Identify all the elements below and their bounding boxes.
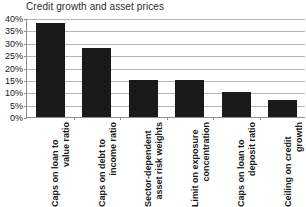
x-axis-category-label-line: Caps on loan to: [236, 122, 247, 207]
x-axis-category-label-line: Sector-dependent: [143, 122, 154, 207]
plot-area: 0%5%10%15%20%25%30%35%40%: [26, 19, 305, 118]
x-axis-category-label: Limit on exposureconcentration: [167, 122, 211, 207]
gridline: [27, 44, 305, 45]
y-axis-tick-mark: [24, 106, 27, 107]
y-axis-tick-mark: [24, 81, 27, 82]
y-axis-tick-mark: [24, 31, 27, 32]
x-axis-category-label-line: concentration: [200, 122, 211, 207]
y-axis-tick-mark: [24, 56, 27, 57]
y-axis-tick-mark: [24, 44, 27, 45]
y-axis-tick-mark: [24, 19, 27, 20]
x-axis-tick-mark: [167, 117, 168, 120]
x-axis-labels-group: Caps on loan tovalue ratioCaps on debt t…: [26, 122, 305, 207]
x-axis-category-label-line: growth: [293, 122, 304, 207]
x-axis-category-label-line: income ratio: [107, 122, 118, 207]
chart-title: Credit growth and asset prices: [26, 0, 164, 13]
x-axis-category-label-line: asset risk weights: [154, 122, 165, 207]
gridline: [27, 31, 305, 32]
x-axis-category-label: Ceiling on creditgrowth: [260, 122, 304, 207]
x-axis-category-label-line: Caps on loan to: [50, 122, 61, 207]
bar: [129, 80, 158, 117]
bar: [82, 48, 111, 117]
x-axis-category-label: Caps on loan tovalue ratio: [27, 122, 71, 207]
x-axis-category-label-line: Ceiling on credit: [283, 122, 294, 207]
y-axis-tick-label: 0%: [10, 114, 23, 123]
x-axis-category-label-line: Limit on exposure: [190, 122, 201, 207]
x-axis-category-label-line: deposit ratio: [247, 122, 258, 207]
gridline: [27, 56, 305, 57]
y-axis-tick-mark: [24, 69, 27, 70]
chart-figure: Credit growth and asset prices 0%5%10%15…: [0, 0, 306, 207]
x-axis-tick-mark: [213, 117, 214, 120]
y-axis-tick-label: 30%: [5, 39, 23, 48]
y-axis-tick-label: 40%: [5, 15, 23, 24]
x-axis-tick-mark: [74, 117, 75, 120]
y-axis-tick-label: 15%: [5, 76, 23, 85]
x-axis-category-label: Caps on debt toincome ratio: [74, 122, 118, 207]
x-axis-category-label: Caps on loan todeposit ratio: [213, 122, 257, 207]
x-axis-category-label-line: Caps on debt to: [97, 122, 108, 207]
y-axis-tick-mark: [24, 118, 27, 119]
gridline: [27, 81, 305, 82]
x-axis-category-label-line: value ratio: [61, 122, 72, 207]
x-axis-tick-mark: [120, 117, 121, 120]
y-axis-tick-label: 10%: [5, 89, 23, 98]
x-axis-category-label: Sector-dependentasset risk weights: [120, 122, 164, 207]
x-axis-tick-mark: [260, 117, 261, 120]
gridline: [27, 93, 305, 94]
gridline: [27, 19, 305, 20]
bar: [268, 100, 297, 117]
y-axis-tick-label: 20%: [5, 64, 23, 73]
gridline: [27, 69, 305, 70]
bar: [36, 23, 65, 117]
gridline: [27, 106, 305, 107]
bar: [222, 92, 251, 117]
y-axis-tick-label: 25%: [5, 52, 23, 61]
y-axis-tick-label: 35%: [5, 27, 23, 36]
y-axis-tick-mark: [24, 93, 27, 94]
y-axis-tick-label: 5%: [10, 101, 23, 110]
bar: [175, 80, 204, 117]
